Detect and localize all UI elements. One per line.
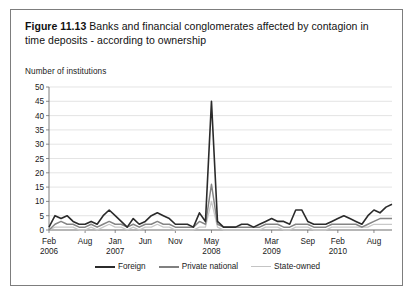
x-tick-label-month: Sep — [300, 237, 315, 246]
y-tick-label: 30 — [35, 140, 45, 149]
legend-label-foreign: Foreign — [118, 262, 146, 271]
legend-label-private-national: Private national — [182, 262, 238, 271]
series-line-private-national — [49, 184, 392, 230]
x-tick-label-month: Aug — [367, 237, 382, 246]
y-tick-label: 5 — [39, 212, 44, 221]
legend-item-state-owned: State-owned — [251, 262, 320, 271]
chart-series — [49, 101, 392, 230]
y-tick-label: 15 — [35, 183, 45, 192]
y-tick-label: 20 — [35, 169, 45, 178]
x-tick-label-month: Jun — [139, 237, 153, 246]
x-tick-label-month: Jan — [109, 237, 123, 246]
x-tick-label-year: 2006 — [40, 247, 59, 256]
chart-legend: Foreign Private national State-owned — [11, 262, 404, 271]
y-tick-label: 0 — [39, 226, 44, 235]
x-tick-label-month: Aug — [78, 237, 93, 246]
chart-plot-area: 05101520253035404550 Feb2006AugJan2007Ju… — [11, 10, 404, 287]
x-tick-label-year: 2008 — [202, 247, 221, 256]
y-tick-label: 45 — [35, 97, 45, 106]
y-axis-labels: 05101520253035404550 — [35, 83, 45, 235]
y-tick-label: 10 — [35, 197, 45, 206]
y-tick-label: 40 — [35, 112, 45, 121]
legend-item-foreign: Foreign — [95, 262, 146, 271]
x-tick-label-year: 2010 — [329, 247, 348, 256]
x-tick-label-month: Mar — [265, 237, 279, 246]
x-tick-label-month: Feb — [331, 237, 346, 246]
x-axis-labels: Feb2006AugJan2007JunNovMay2008Mar2009Sep… — [40, 237, 382, 256]
y-tick-label: 35 — [35, 126, 45, 135]
x-tick-label-month: Feb — [42, 237, 57, 246]
legend-label-state-owned: State-owned — [274, 262, 320, 271]
line-chart: 05101520253035404550 Feb2006AugJan2007Ju… — [11, 10, 404, 260]
x-tick-label-month: Nov — [168, 237, 183, 246]
series-line-foreign — [49, 101, 392, 227]
legend-line-icon-state-owned — [251, 266, 271, 267]
x-tick-label-month: May — [204, 237, 220, 246]
y-tick-label: 50 — [35, 83, 45, 92]
legend-line-icon-foreign — [95, 266, 115, 268]
y-tick-label: 25 — [35, 155, 45, 164]
chart-gridlines — [49, 87, 392, 230]
legend-item-private-national: Private national — [159, 262, 238, 271]
figure-frame: Figure 11.13 Banks and financial conglom… — [10, 9, 403, 286]
legend-line-icon-private-national — [159, 266, 179, 268]
x-tick-label-year: 2009 — [263, 247, 282, 256]
x-tick-label-year: 2007 — [106, 247, 125, 256]
chart-axes — [46, 87, 392, 233]
